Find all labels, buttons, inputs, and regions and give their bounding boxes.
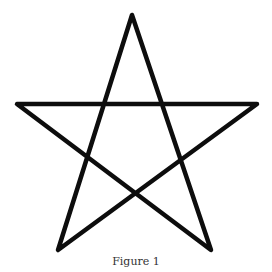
star-outline [17,15,257,250]
pentagram-diagram [0,0,272,272]
figure-caption: Figure 1 [0,255,272,269]
figure-container: Figure 1 [0,0,272,272]
